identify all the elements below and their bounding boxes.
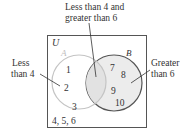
- element-b-9: 9: [111, 86, 116, 96]
- element-a-2: 2: [64, 83, 69, 93]
- element-b-7: 7: [110, 63, 115, 73]
- universe-label: U: [52, 37, 60, 48]
- callout-right-line2: than 6: [151, 69, 175, 79]
- set-b-label: B: [126, 48, 132, 58]
- callout-left-line1: Less: [12, 58, 30, 68]
- element-b-8: 8: [121, 70, 126, 80]
- callout-top-line1: Less than 4 and: [65, 2, 125, 12]
- callout-left-line2: than 4: [11, 69, 35, 79]
- callout-right-line1: Greater: [151, 58, 180, 68]
- element-b-10: 10: [115, 98, 125, 108]
- callout-top-line2: greater than 6: [65, 13, 117, 23]
- set-a-label: A: [60, 48, 67, 58]
- venn-diagram: U A B 1 2 3 7 8 9 10 4, 5, 6 Less than 4…: [0, 0, 194, 137]
- outside-elements: 4, 5, 6: [52, 116, 76, 126]
- element-a-3: 3: [72, 102, 77, 112]
- element-a-1: 1: [66, 65, 71, 75]
